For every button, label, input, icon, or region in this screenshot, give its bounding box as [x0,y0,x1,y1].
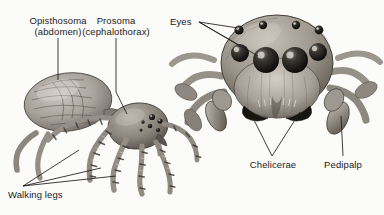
spider-lateral-view [16,68,200,194]
label-prosoma: Prosoma (cephalothorax) [72,15,160,37]
leader-prosoma [116,38,127,114]
label-walking-legs: Walking legs [8,189,80,200]
label-chelicerae-line1: Chelicerae [250,159,296,170]
eye-anterior-lateral-right [309,43,327,61]
spider-frontal-view [172,15,380,138]
label-prosoma-line2: (cephalothorax) [72,26,160,37]
label-prosoma-line1: Prosoma [97,15,136,26]
label-eyes: Eyes [170,16,200,27]
label-chelicerae: Chelicerae [242,159,304,170]
eye-anterior-median-left [253,47,279,73]
eye-anterior-lateral-left [231,44,249,62]
eye-posterior-lateral-left [234,25,243,34]
label-eyes-line1: Eyes [170,16,192,27]
eye-posterior-median-right [292,21,300,29]
eye-posterior-median-left [259,21,267,29]
leader-chelicerae-2 [272,112,300,156]
eye-anterior-median-right [282,47,308,73]
label-walking-legs-line1: Walking legs [8,189,63,200]
label-pedipalp: Pedipalp [316,159,370,170]
label-pedipalp-line1: Pedipalp [324,159,362,170]
spider-anatomy-figure: Opisthosoma (abdomen) Prosoma (cephaloth… [0,0,384,215]
eye-posterior-lateral-right [315,26,324,35]
